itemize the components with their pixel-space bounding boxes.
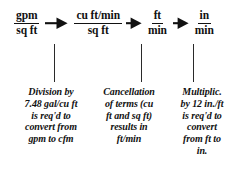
unit-fraction-2-numerator: cu ft/min [74,9,122,23]
unit-conversion-figure: gpm sq ft cu ft/min sq ft ft min [0,0,244,172]
right-arrow-icon [173,17,189,30]
caption-multiplication: Multiplic. by 12 in./ft is req'd to conv… [166,86,238,157]
unit-fraction-4: in min [193,9,216,37]
unit-fraction-1-numerator: gpm [14,9,39,23]
connector-line-2 [141,44,142,82]
unit-fraction-1: gpm sq ft [14,9,39,37]
right-arrow-icon [126,17,142,30]
right-arrow-icon [45,17,68,30]
caption-division: Division by 7.48 gal/cu ft is req'd to c… [10,86,92,145]
unit-fraction-2: cu ft/min sq ft [74,9,122,37]
connector-line-1 [54,44,55,82]
conversion-chain: gpm sq ft cu ft/min sq ft ft min [0,0,244,46]
unit-fraction-3: ft min [146,9,169,37]
unit-fraction-3-numerator: ft [152,9,163,23]
unit-fraction-2-denominator: sq ft [86,24,111,37]
unit-fraction-3-denominator: min [146,24,169,37]
unit-fraction-1-denominator: sq ft [14,24,39,37]
connector-line-3 [193,44,194,82]
caption-group: Division by 7.48 gal/cu ft is req'd to c… [0,86,244,157]
unit-fraction-4-denominator: min [193,24,216,37]
caption-cancellation: Cancellation of terms (cu ft and sq ft) … [92,86,166,145]
unit-fraction-4-numerator: in [198,9,211,23]
